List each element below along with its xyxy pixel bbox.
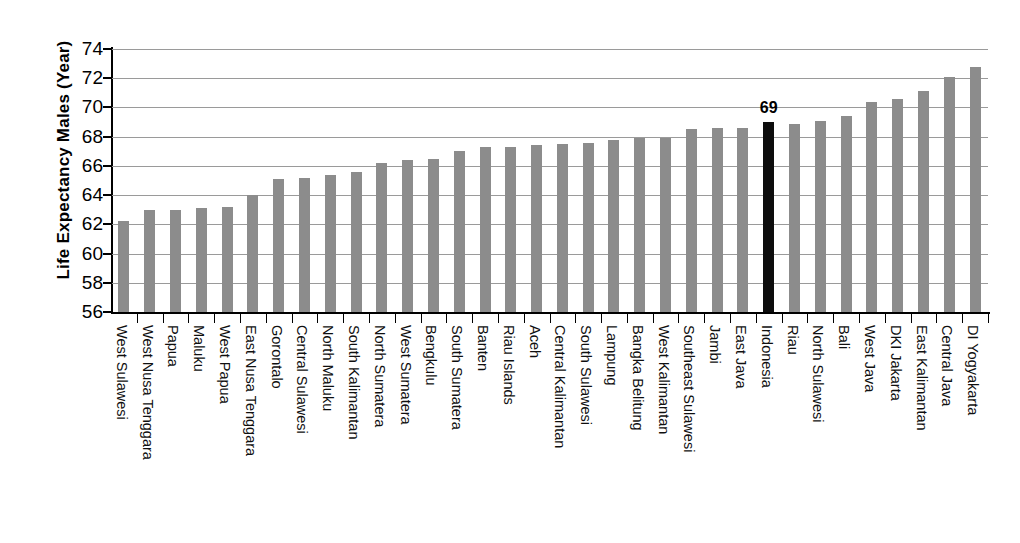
bar[interactable] <box>634 138 645 312</box>
x-axis-label: West Sumatera <box>398 325 413 425</box>
y-tick-label: 66 <box>43 156 103 175</box>
x-axis-label: Riau <box>785 325 800 355</box>
x-tick-mark <box>885 314 886 323</box>
y-axis-ticks: 56586062646668707274 <box>28 0 103 543</box>
x-axis-label: East Nusa Tenggara <box>243 325 258 456</box>
bar[interactable] <box>815 121 826 312</box>
x-tick-mark <box>601 314 602 323</box>
bar[interactable] <box>376 163 387 312</box>
bar[interactable] <box>170 210 181 312</box>
bar[interactable] <box>273 179 284 312</box>
x-axis-label: South Sulawesi <box>578 325 593 425</box>
bar[interactable] <box>918 91 929 312</box>
bar[interactable] <box>454 151 465 312</box>
x-axis-label: South Sumatera <box>449 325 464 430</box>
gridline <box>111 224 988 225</box>
x-axis-label: Riau Islands <box>501 325 516 405</box>
x-tick-mark <box>575 314 576 323</box>
y-tick-mark <box>103 282 112 284</box>
gridline <box>111 107 988 108</box>
y-tick-mark <box>103 106 112 108</box>
x-axis-label: Maluku <box>191 325 206 372</box>
bar[interactable] <box>428 159 439 312</box>
x-tick-mark <box>859 314 860 323</box>
x-axis-label: DI Yogyakarta <box>965 325 980 415</box>
bar[interactable] <box>660 138 671 312</box>
x-axis-label: North Sulawesi <box>810 325 825 423</box>
gridline <box>111 195 988 196</box>
x-axis-label: Central Sulawesi <box>294 325 309 434</box>
bar[interactable] <box>944 77 955 312</box>
x-tick-mark <box>266 314 267 323</box>
x-axis-label: Gorontalo <box>269 325 284 389</box>
x-axis-label: Central Kalimantan <box>552 325 567 448</box>
bar[interactable] <box>247 195 258 312</box>
x-tick-mark <box>807 314 808 323</box>
x-tick-mark <box>962 314 963 323</box>
x-axis-label: East Kalimantan <box>914 325 929 431</box>
x-tick-mark <box>936 314 937 323</box>
bar[interactable] <box>299 178 310 312</box>
bar[interactable] <box>712 128 723 312</box>
x-tick-mark <box>988 314 989 323</box>
bar[interactable] <box>325 175 336 312</box>
x-tick-mark <box>292 314 293 323</box>
bar[interactable] <box>351 172 362 312</box>
y-tick-label: 64 <box>43 185 103 204</box>
bar[interactable] <box>608 140 619 312</box>
x-axis-label: Jambi <box>707 325 722 364</box>
x-tick-mark <box>446 314 447 323</box>
x-tick-mark <box>188 314 189 323</box>
plot-area <box>111 49 988 312</box>
x-tick-mark <box>369 314 370 323</box>
y-tick-label: 58 <box>43 273 103 292</box>
y-tick-mark <box>103 194 112 196</box>
y-tick-label: 60 <box>43 244 103 263</box>
bar[interactable] <box>686 129 697 312</box>
x-axis-label: Central Java <box>939 325 954 406</box>
x-axis-label: Bali <box>836 325 851 349</box>
bar[interactable] <box>222 207 233 312</box>
bar[interactable] <box>118 221 129 312</box>
gridline <box>111 137 988 138</box>
x-axis-label: North Sumatera <box>372 325 387 427</box>
y-tick-label: 62 <box>43 214 103 233</box>
bar[interactable] <box>557 144 568 312</box>
bar[interactable] <box>970 67 981 312</box>
x-tick-mark <box>421 314 422 323</box>
bar[interactable] <box>480 147 491 312</box>
bar[interactable] <box>789 124 800 312</box>
bar[interactable] <box>583 143 594 312</box>
x-tick-mark <box>550 314 551 323</box>
x-axis-label: Indonesia <box>759 325 774 388</box>
x-axis-label: West Papua <box>217 325 232 404</box>
bar[interactable] <box>144 210 155 312</box>
y-tick-mark <box>103 136 112 138</box>
x-axis-label: North Maluku <box>320 325 335 411</box>
x-tick-mark <box>756 314 757 323</box>
y-tick-label: 70 <box>43 97 103 116</box>
x-tick-mark <box>240 314 241 323</box>
x-tick-mark <box>911 314 912 323</box>
bar[interactable] <box>402 160 413 312</box>
bar-value-label: 69 <box>739 99 799 117</box>
y-tick-mark <box>103 253 112 255</box>
x-tick-mark <box>833 314 834 323</box>
x-tick-mark <box>704 314 705 323</box>
bar[interactable] <box>841 116 852 312</box>
x-tick-mark <box>627 314 628 323</box>
x-tick-mark <box>782 314 783 323</box>
y-tick-mark <box>103 77 112 79</box>
y-tick-mark <box>103 311 112 313</box>
bar[interactable] <box>763 122 774 312</box>
bar[interactable] <box>737 128 748 312</box>
bar[interactable] <box>196 208 207 312</box>
x-tick-mark <box>730 314 731 323</box>
x-tick-mark <box>524 314 525 323</box>
bar[interactable] <box>892 99 903 312</box>
x-axis-label: South Kalimantan <box>346 325 361 439</box>
gridline <box>111 166 988 167</box>
bar[interactable] <box>531 145 542 312</box>
bar[interactable] <box>866 102 877 312</box>
bar[interactable] <box>505 147 516 312</box>
